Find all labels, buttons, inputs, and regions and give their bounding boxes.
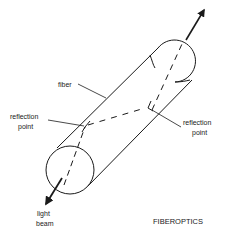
fiberoptics-diagram: fiber reflection point reflection point …	[0, 0, 225, 231]
fiber-cylinder	[46, 40, 195, 194]
reflection-right-label-line1: reflection	[183, 119, 212, 126]
arrow-out-top	[186, 10, 204, 40]
fiber-label: fiber	[58, 81, 72, 88]
cylinder-top-cap	[158, 40, 195, 82]
fiber-leader	[78, 84, 106, 98]
beam-segment	[88, 108, 145, 125]
reflection-right-leader	[152, 110, 181, 127]
reflection-right-label-line2: point	[192, 129, 207, 137]
diagram-title: FIBEROPTICS	[153, 217, 203, 226]
reflection-left-label-line1: reflection	[10, 113, 39, 120]
light-beam-label-line1: light	[37, 210, 50, 218]
reflection-left-label-line2: point	[18, 123, 33, 131]
cylinder-bottom-cap	[46, 146, 94, 194]
beam-segment	[152, 44, 182, 110]
cylinder-top-edge	[57, 48, 158, 148]
cylinder-top-cap-left	[150, 55, 155, 68]
reflection-left-leader	[48, 120, 84, 126]
cylinder-bottom-edge	[88, 80, 192, 186]
light-beam-label-line2: beam	[36, 220, 54, 227]
